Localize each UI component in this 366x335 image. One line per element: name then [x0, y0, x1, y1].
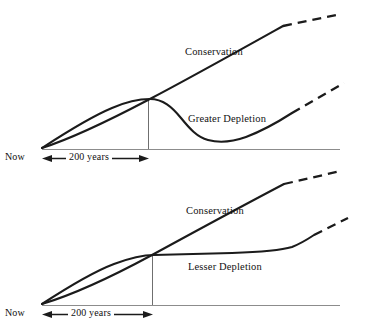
- span-arrow-head-left-top: [42, 155, 52, 162]
- series-line-conservation-dash-bottom: [284, 171, 341, 184]
- series-label-conservation-top: Conservation: [185, 47, 243, 58]
- span-label-bottom: 200 years: [68, 308, 114, 318]
- span-label-top: 200 years: [66, 152, 112, 162]
- series-line-conservation-dash-top: [283, 14, 341, 26]
- figure-container: Now 200 years Conservation Greater Deple…: [0, 0, 366, 335]
- series-line-lesser-depletion-bottom: [42, 235, 314, 304]
- series-label-lesser-depletion-bottom: Lesser Depletion: [188, 262, 262, 273]
- series-line-conservation-top: [42, 26, 283, 148]
- series-line-greater-depletion-dash-top: [292, 83, 344, 113]
- origin-label-bottom: Now: [5, 308, 25, 318]
- span-arrow-head-right-bottom: [143, 311, 153, 318]
- series-label-conservation-bottom: Conservation: [186, 206, 244, 217]
- chart-svg-top: [0, 0, 366, 167]
- origin-label-top: Now: [5, 152, 25, 162]
- span-arrow-head-right-top: [139, 155, 149, 162]
- chart-panel-greater-depletion: Now 200 years Conservation Greater Deple…: [0, 0, 366, 167]
- span-arrow-head-left-bottom: [42, 311, 52, 318]
- series-label-greater-depletion-top: Greater Depletion: [188, 114, 266, 125]
- chart-panel-lesser-depletion: Now 200 years Conservation Lesser Deplet…: [0, 167, 366, 334]
- chart-svg-bottom: [0, 167, 366, 335]
- series-line-conservation-bottom: [42, 184, 284, 304]
- series-line-lesser-depletion-dash-bottom: [314, 218, 348, 235]
